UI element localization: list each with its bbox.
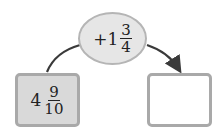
result-answer-box[interactable] [147,73,212,127]
start-value: 4 9 10 [31,84,65,117]
operation-oval: + 1 3 4 [78,12,147,65]
operation-sign: + [93,29,107,49]
start-denominator: 10 [43,101,64,117]
operation-denominator: 4 [120,39,132,55]
start-fraction: 9 10 [43,84,64,117]
operation-fraction: 3 4 [120,22,132,55]
right-arrow [147,45,178,68]
start-value-box: 4 9 10 [15,73,80,127]
operation-value: + 1 3 4 [93,22,132,55]
start-whole: 4 [31,90,42,110]
operation-numerator: 3 [120,22,132,39]
start-numerator: 9 [48,84,60,101]
operation-whole: 1 [107,29,118,49]
left-connector-line [47,45,80,72]
